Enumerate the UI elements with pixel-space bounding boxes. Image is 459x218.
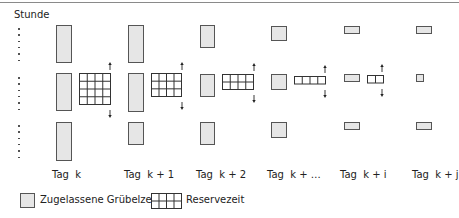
day-label: Tag k + j xyxy=(412,169,459,180)
permitted-time-box-top xyxy=(128,25,144,63)
arrow-down-icon xyxy=(251,95,257,103)
arrow-up-icon xyxy=(179,62,185,70)
day-label: Tag k + i xyxy=(340,169,387,180)
permitted-time-box-mid xyxy=(56,73,72,111)
legend-permitted-label: Zugelassene Grübelzeit xyxy=(40,194,158,205)
legend-reserve-label: Reservezeit xyxy=(186,194,244,205)
hour-dot xyxy=(18,150,20,152)
permitted-time-box-mid xyxy=(344,74,360,82)
reserve-time-grid xyxy=(294,76,326,85)
arrow-up-icon xyxy=(107,62,113,70)
hour-dot xyxy=(18,34,20,36)
permitted-time-box-mid xyxy=(416,74,424,82)
reserve-time-grid xyxy=(222,74,254,90)
hour-dot xyxy=(18,47,20,49)
arrow-up-icon xyxy=(322,65,328,73)
arrow-down-icon xyxy=(179,102,185,110)
hour-dot xyxy=(18,138,20,140)
arrow-down-icon xyxy=(379,89,385,97)
permitted-time-box-top xyxy=(56,25,72,63)
permitted-time-box-bot xyxy=(416,122,432,130)
permitted-time-box-mid xyxy=(200,74,215,97)
arrow-up-icon xyxy=(379,64,385,72)
arrow-down-icon xyxy=(107,110,113,118)
hour-dot xyxy=(18,109,20,111)
hour-dot xyxy=(18,28,20,30)
hour-dot xyxy=(18,125,20,127)
permitted-time-box-bot xyxy=(271,122,287,138)
permitted-time-box-top xyxy=(344,26,360,34)
day-label: Tag k xyxy=(52,169,81,180)
hour-dot xyxy=(18,102,20,104)
hour-dot xyxy=(18,157,20,159)
permitted-time-box-bot xyxy=(128,122,144,145)
day-label: Tag k + 2 xyxy=(196,169,246,180)
permitted-time-box-bot xyxy=(344,122,360,130)
legend-permitted-swatch xyxy=(20,193,35,208)
hour-dot xyxy=(18,53,20,55)
hour-dot xyxy=(18,83,20,85)
reserve-time-grid xyxy=(151,73,182,97)
reserve-time-grid xyxy=(79,73,111,105)
permitted-time-box-mid xyxy=(128,73,144,112)
day-label: Tag k + 1 xyxy=(124,169,174,180)
top-rule xyxy=(0,2,459,3)
permitted-time-box-top xyxy=(271,26,287,41)
permitted-time-box-top xyxy=(416,26,432,34)
hour-dot xyxy=(18,60,20,62)
legend-reserve-swatch xyxy=(151,193,182,209)
hour-dot xyxy=(18,131,20,133)
reserve-time-grid xyxy=(367,75,384,84)
y-axis-label: Stunde xyxy=(14,9,49,20)
hour-dot xyxy=(18,41,20,43)
arrow-up-icon xyxy=(251,63,257,71)
permitted-time-box-top xyxy=(200,25,215,48)
permitted-time-box-mid xyxy=(271,74,287,90)
hour-dot xyxy=(18,96,20,98)
permitted-time-box-bot xyxy=(56,122,72,161)
hour-dot xyxy=(18,144,20,146)
permitted-time-box-bot xyxy=(200,122,215,145)
arrow-down-icon xyxy=(322,90,328,98)
day-label: Tag k + … xyxy=(267,169,321,180)
hour-dot xyxy=(18,90,20,92)
hour-dot xyxy=(18,77,20,79)
